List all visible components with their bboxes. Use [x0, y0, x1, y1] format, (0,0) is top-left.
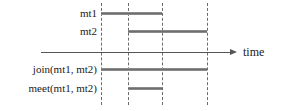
time-axis-line — [41, 52, 232, 53]
interval-bar-mt1 — [101, 12, 162, 15]
time-guide-4 — [207, 3, 208, 105]
temporal-interval-diagram: mt1 mt2 time join(mt1, mt2) meet(mt1, mt… — [0, 0, 282, 111]
interval-bar-meet — [128, 87, 162, 90]
arrow-right-icon — [230, 49, 237, 55]
time-guide-3 — [162, 3, 163, 105]
row-label-join: join(mt1, mt2) — [4, 64, 97, 75]
interval-bar-mt2 — [128, 30, 207, 33]
row-label-mt1: mt1 — [4, 8, 97, 19]
time-guide-1 — [101, 3, 102, 105]
row-label-meet: meet(mt1, mt2) — [4, 83, 97, 94]
interval-bar-join — [101, 68, 207, 71]
time-axis-label: time — [243, 46, 264, 58]
row-label-mt2: mt2 — [4, 26, 97, 37]
